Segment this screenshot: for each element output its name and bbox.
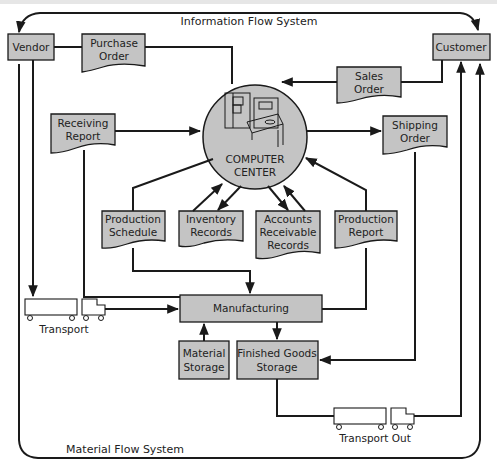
fgs-label-2: Storage	[256, 361, 297, 373]
purchase-order-document[interactable]: Purchase Order	[82, 34, 145, 72]
inventory-records-label-1: Inventory	[186, 213, 236, 225]
computer-center-node[interactable]: COMPUTER CENTER	[203, 85, 307, 189]
ar-records-label-1: Accounts	[264, 213, 312, 225]
shipping-order-document[interactable]: Shipping Order	[383, 116, 447, 154]
information-material-flow-diagram: Information Flow System Material Flow Sy…	[0, 0, 497, 473]
purchase-order-label-1: Purchase	[90, 37, 138, 49]
sales-order-label-1: Sales	[355, 70, 383, 82]
receiving-report-label-1: Receiving	[58, 117, 109, 129]
pr-to-computer-line	[306, 158, 366, 211]
so-to-fgs-line	[320, 152, 415, 360]
material-storage-node[interactable]: Material Storage	[179, 341, 229, 379]
vendor-label: Vendor	[13, 41, 51, 53]
transport-out-to-customer-line	[414, 62, 461, 416]
computer-center-label-2: CENTER	[234, 166, 276, 178]
transport-label: Transport	[38, 323, 88, 335]
receiving-report-label-2: Report	[66, 130, 101, 142]
vendor-node[interactable]: Vendor	[8, 34, 54, 60]
manufacturing-to-pr-line	[322, 248, 366, 309]
customer-label: Customer	[435, 41, 487, 53]
shipping-order-label-2: Order	[400, 132, 431, 144]
customer-node[interactable]: Customer	[433, 34, 490, 60]
ir-to-computer-line	[193, 184, 222, 211]
manufacturing-node[interactable]: Manufacturing	[180, 295, 322, 322]
sales-order-label-2: Order	[354, 83, 385, 95]
production-report-label-1: Production	[338, 213, 394, 225]
finished-goods-storage-node[interactable]: Finished Goods Storage	[237, 341, 318, 379]
receiving-report-document[interactable]: Receiving Report	[51, 114, 115, 153]
transport-out-label: Transport Out	[338, 432, 411, 444]
customer-to-so-line	[401, 60, 442, 82]
po-to-computer-line	[145, 47, 232, 84]
production-report-document[interactable]: Production Report	[335, 211, 397, 248]
inventory-records-label-2: Records	[190, 226, 232, 238]
production-report-label-2: Report	[349, 226, 384, 238]
computer-to-ir-line	[218, 186, 241, 210]
information-flow-system-label: Information Flow System	[181, 15, 318, 28]
accounts-receivable-records-document[interactable]: Accounts Receivable Records	[256, 211, 320, 259]
ar-records-label-2: Receivable	[259, 226, 316, 238]
material-flow-system-label: Material Flow System	[66, 443, 184, 456]
sales-order-document[interactable]: Sales Order	[337, 67, 401, 103]
material-storage-label-2: Storage	[183, 361, 224, 373]
computer-center-label-1: COMPUTER	[225, 153, 284, 165]
ar-to-computer-line	[284, 186, 305, 211]
truck-icon	[25, 299, 105, 321]
outbound-transport-truck[interactable]: Transport Out	[334, 408, 414, 444]
ps-to-manufacturing-line	[133, 248, 250, 293]
production-schedule-label-2: Schedule	[109, 226, 157, 238]
production-schedule-document[interactable]: Production Schedule	[102, 211, 165, 248]
fgs-to-transport-out-line	[277, 379, 334, 416]
fgs-label-1: Finished Goods	[237, 347, 316, 359]
shipping-order-label-1: Shipping	[392, 119, 438, 131]
manufacturing-label: Manufacturing	[213, 302, 289, 314]
ar-records-label-3: Records	[267, 239, 309, 251]
top-border-band	[0, 0, 497, 4]
inventory-records-document[interactable]: Inventory Records	[179, 211, 243, 247]
material-storage-label-1: Material	[183, 347, 226, 359]
inbound-transport-truck[interactable]: Transport	[25, 299, 105, 335]
production-schedule-label-1: Production	[105, 213, 161, 225]
truck-icon	[334, 408, 414, 430]
purchase-order-label-2: Order	[99, 50, 130, 62]
computer-to-ar-line	[268, 186, 288, 210]
